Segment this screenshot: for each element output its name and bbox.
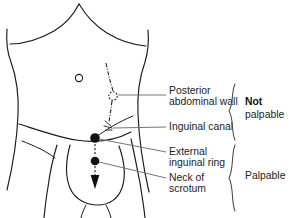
descent-path-canal [109,101,112,122]
leader-neck-of-scrotum [99,162,166,178]
canal-hatch-1 [105,121,111,126]
right-flank-outline [138,30,149,192]
label-posterior-abdominal-wall-line1: Posterior [169,85,211,96]
deep-inguinal-ring-icon [109,92,117,100]
label-posterior-abdominal-wall-line2: abdominal wall [169,96,238,107]
umbilicus-icon [75,74,82,81]
leader-external-inguinal-ring [99,139,166,152]
descent-arrow-head [91,175,100,189]
perineum-line [106,205,111,218]
left-groin-crease [22,141,55,158]
label-neck-of-scrotum-line1: Neck of [169,172,204,183]
label-external-inguinal-ring-line2: inguinal ring [169,157,225,168]
group-label-not-palpable-rest: palpable [245,109,285,120]
diagram-canvas: Posterior abdominal wall Inguinal canal … [0,0,294,218]
inguinal-crease-line [19,124,131,141]
labels-group: Posterior abdominal wall Inguinal canal … [169,85,238,194]
right-costal-margin [79,4,146,46]
group-label-palpable: Palpable [245,170,286,181]
inguinal-anatomy-diagram: Posterior abdominal wall Inguinal canal … [0,0,294,218]
label-neck-of-scrotum-line2: scrotum [169,183,206,194]
right-thigh-line [131,139,145,218]
neck-of-scrotum-dot [91,157,100,166]
torso-outline-group [7,4,149,218]
group-label-not-bold: Not [245,96,263,107]
left-thigh-line [44,145,57,218]
leader-inguinal-canal [113,127,166,128]
descent-path-upper [106,63,113,91]
left-costal-margin [10,4,79,44]
label-external-inguinal-ring-line1: External [169,146,207,157]
left-flank-outline [7,29,19,190]
leader-lines-group [99,95,166,178]
brace-palpable [229,145,235,211]
label-inguinal-canal: Inguinal canal [169,121,233,132]
external-inguinal-ring-dot [90,133,100,143]
testicular-descent-group [90,63,133,189]
scrotal-raphe-line [81,205,86,218]
